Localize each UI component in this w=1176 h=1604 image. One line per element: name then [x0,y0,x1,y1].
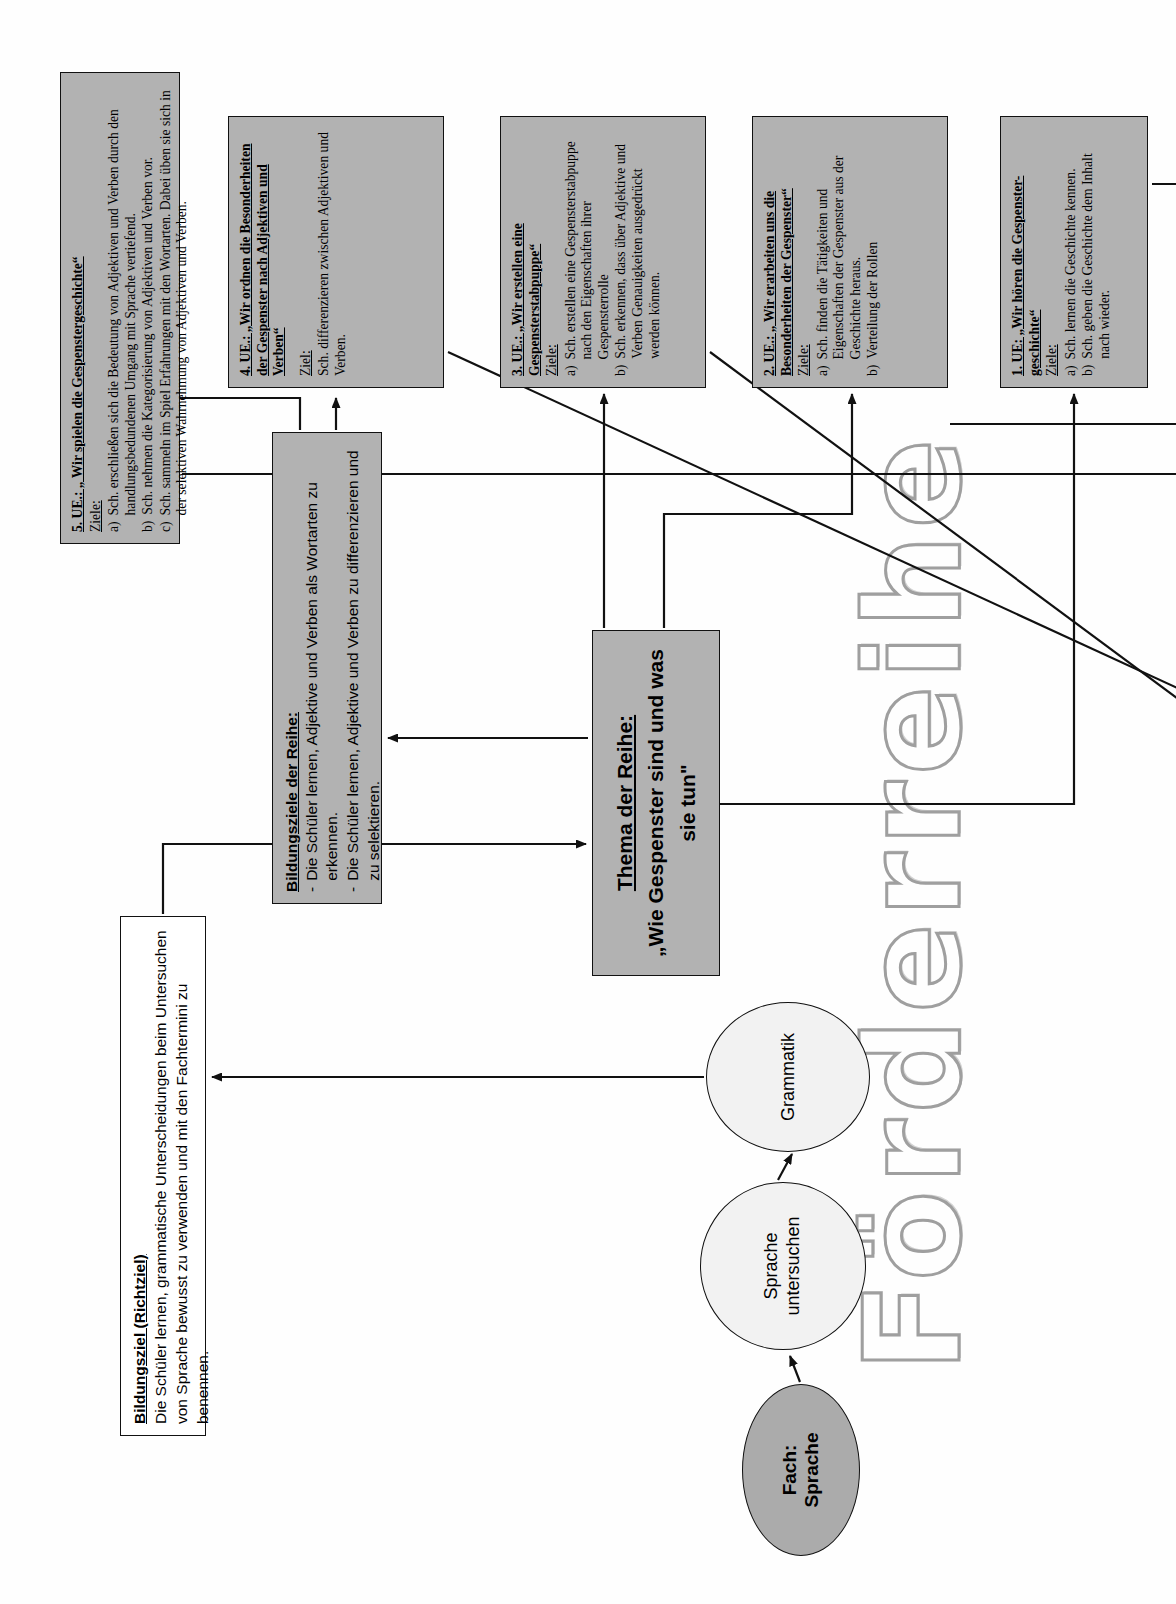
lesson-title: 3. UE.: „Wir erstellen eine Gespensterst… [510,128,543,376]
goal-text: Sch. erschließen sich die Bedeutung von … [106,84,139,515]
lesson-box-ue4: 4. UE.: „Wir ordnen die Besonderheiten d… [228,116,444,388]
diagram-canvas: Förderreihe [0,0,1176,1604]
goal-text: Sch. sammeln im Spiel Erfahrungen mit de… [158,84,191,515]
subject-oval-line2: Sprache [801,1433,823,1508]
goal-text: Sch. geben die Geschichte dem Inhalt nac… [1080,128,1113,359]
bildungsziele-item-text: Die Schüler lernen, Adjektive und Verben… [343,444,383,881]
list-item: b) Verteilung der Rollen [865,128,882,376]
goal-marker: b) [613,365,663,376]
thema-subtitle: „Wie Gespenster sind und was sie tun" [640,642,703,964]
lesson-box-ue1: 1. UE: „Wir hören die Gespenster-geschic… [1000,116,1148,388]
page-root: Förderreihe [0,0,1176,1604]
richtziel-title: Bildungsziel (Richtziel) [130,928,151,1424]
richtziel-body: Die Schüler lernen, grammatische Untersc… [151,928,214,1424]
list-item: c) Sch. sammeln im Spiel Erfahrungen mit… [158,84,191,532]
lesson-box-ue3: 3. UE.: „Wir erstellen eine Gespensterst… [500,116,706,388]
goal-text: Sch. nehmen die Kategorisierung von Adje… [140,84,157,515]
lesson-goals-label: Ziele: [1044,128,1061,376]
dash-marker: - [302,887,342,892]
lesson-goals-label: Ziele: [88,84,105,532]
thema-title: Thema der Reihe: [609,715,641,891]
thema-box: Thema der Reihe: „Wie Gespenster sind un… [592,630,720,976]
lesson-goals-list: a) Sch. lernen die Geschichte kennen. b)… [1063,128,1114,376]
lesson-goals-list: a) Sch. finden die Tätigkeiten und Eigen… [815,128,882,376]
goal-marker: a) [815,365,865,376]
richtziel-box: Bildungsziel (Richtziel) Die Schüler ler… [120,916,206,1436]
domain-oval: Sprache untersuchen [700,1182,866,1350]
subject-oval: Fach: Sprache [742,1384,860,1556]
list-item: b) Sch. erkennen, dass über Adjektive un… [613,128,663,376]
goal-text: Sch. differenzieren zwischen Adjektiven … [316,128,349,376]
lesson-goals-list: Sch. differenzieren zwischen Adjektiven … [316,128,349,376]
topic-oval-label: Grammatik [778,1033,799,1121]
bildungsziele-list: - Die Schüler lernen, Adjektive und Verb… [302,444,384,892]
goal-marker: a) [106,521,139,532]
goal-marker: b) [1080,365,1113,376]
lesson-goals-label: Ziele: [544,128,561,376]
domain-oval-line1: Sprache [761,1216,783,1315]
list-item: Sch. differenzieren zwischen Adjektiven … [316,128,349,376]
lesson-goals-list: a) Sch. erschließen sich die Bedeutung v… [106,84,191,532]
goal-text: Sch. erkennen, dass über Adjektive und V… [613,128,663,359]
goal-marker: a) [1063,365,1080,376]
goal-text: Verteilung der Rollen [865,128,882,359]
goal-text: Sch. finden die Tätigkeiten und Eigensch… [815,128,865,359]
bildungsziele-title: Bildungsziele der Reihe: [282,444,302,892]
dash-marker: - [343,887,383,892]
watermark-text: Förderreihe [836,433,990,1372]
goal-marker: b) [140,521,157,532]
list-item: b) Sch. geben die Geschichte dem Inhalt … [1080,128,1113,376]
list-item: a) Sch. lernen die Geschichte kennen. [1063,128,1080,376]
goal-marker: b) [865,365,882,376]
bildungsziele-box: Bildungsziele der Reihe: - Die Schüler l… [272,432,382,904]
goal-marker: a) [563,365,613,376]
lesson-box-ue2: 2. UE.: „ Wir erarbeiten uns die Besonde… [752,116,948,388]
lesson-title: 4. UE.: „Wir ordnen die Besonderheiten d… [238,128,288,376]
domain-oval-line2: untersuchen [783,1216,805,1315]
lesson-title: 2. UE.: „ Wir erarbeiten uns die Besonde… [762,128,795,376]
bildungsziele-item-text: Die Schüler lernen, Adjektive und Verben… [302,444,342,881]
list-item: - Die Schüler lernen, Adjektive und Verb… [302,444,342,892]
list-item: a) Sch. erstellen eine Gespensterstabpup… [563,128,613,376]
goal-marker: c) [158,521,191,532]
goal-text: Sch. lernen die Geschichte kennen. [1063,128,1080,359]
list-item: - Die Schüler lernen, Adjektive und Verb… [343,444,383,892]
lesson-box-ue5: 5. UE.: „ Wir spielen die Gespenstergesc… [60,72,180,544]
goal-text: Sch. erstellen eine Gespensterstabpuppe … [563,128,613,359]
subject-oval-line1: Fach: [779,1433,801,1508]
lesson-goals-label: Ziele: [796,128,813,376]
topic-oval: Grammatik [706,1002,870,1152]
list-item: a) Sch. erschließen sich die Bedeutung v… [106,84,139,532]
list-item: b) Sch. nehmen die Kategorisierung von A… [140,84,157,532]
lesson-goals-list: a) Sch. erstellen eine Gespensterstabpup… [563,128,663,376]
list-item: a) Sch. finden die Tätigkeiten und Eigen… [815,128,865,376]
lesson-title: 1. UE: „Wir hören die Gespenster-geschic… [1010,128,1043,376]
lesson-title: 5. UE.: „ Wir spielen die Gespenstergesc… [70,84,87,532]
lesson-goals-label: Ziel: [298,128,315,376]
